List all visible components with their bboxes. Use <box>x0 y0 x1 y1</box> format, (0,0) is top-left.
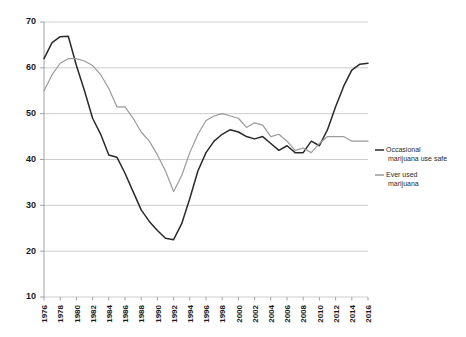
x-tick-label: 1990 <box>154 304 163 322</box>
legend-label: Ever used <box>386 171 418 178</box>
x-tick-label: 1986 <box>121 304 130 322</box>
y-tick-label: 50 <box>26 108 36 118</box>
x-tick-label: 1980 <box>73 304 82 322</box>
x-tick-label: 2012 <box>332 304 341 322</box>
y-tick-label: 40 <box>26 154 36 164</box>
x-tick-label: 2004 <box>267 304 276 322</box>
x-tick-label: 1996 <box>202 304 211 322</box>
x-tick-label: 2016 <box>364 304 373 322</box>
series-line-1 <box>44 36 368 240</box>
chart-container: 10203040506070 1976197819801982198419861… <box>0 0 466 337</box>
y-axis-ticks: 10203040506070 <box>26 16 44 301</box>
y-tick-label: 60 <box>26 62 36 72</box>
x-tick-label: 2014 <box>348 304 357 322</box>
x-tick-label: 1976 <box>40 304 49 322</box>
legend-label: Occasional <box>386 146 421 153</box>
gridlines-group <box>44 22 368 297</box>
y-tick-label: 70 <box>26 16 36 26</box>
x-tick-label: 1998 <box>218 304 227 322</box>
series-line-2 <box>44 59 368 192</box>
x-tick-label: 1988 <box>137 304 146 322</box>
x-tick-label: 1984 <box>105 304 114 322</box>
x-tick-label: 1978 <box>56 304 65 322</box>
y-tick-label: 10 <box>26 291 36 301</box>
x-tick-label: 2008 <box>299 304 308 322</box>
x-axis-ticks: 1976197819801982198419861988199019921994… <box>40 297 373 323</box>
x-tick-label: 2002 <box>251 304 260 322</box>
y-tick-label: 30 <box>26 200 36 210</box>
x-tick-label: 1992 <box>170 304 179 322</box>
legend-label: marijuana <box>388 180 419 188</box>
legend-label: marijuana use safe <box>388 155 447 163</box>
x-tick-label: 2010 <box>316 304 325 322</box>
x-tick-label: 2000 <box>235 304 244 322</box>
series-group <box>44 36 368 240</box>
chart-legend: Occasionalmarijuana use safeEver usedmar… <box>375 146 447 188</box>
x-tick-label: 1994 <box>186 304 195 322</box>
line-chart: 10203040506070 1976197819801982198419861… <box>0 0 466 337</box>
y-tick-label: 20 <box>26 246 36 256</box>
x-tick-label: 2006 <box>283 304 292 322</box>
x-tick-label: 1982 <box>89 304 98 322</box>
